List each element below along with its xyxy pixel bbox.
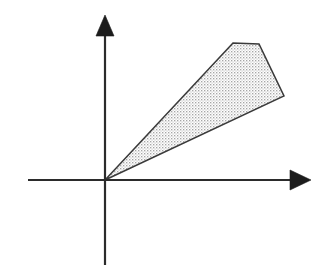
figure-canvas bbox=[0, 0, 328, 273]
coordinate-diagram bbox=[0, 0, 328, 273]
shaded-cone-region bbox=[105, 43, 284, 180]
y-axis-arrowhead-icon bbox=[96, 15, 114, 36]
x-axis-arrowhead-icon bbox=[290, 170, 311, 190]
